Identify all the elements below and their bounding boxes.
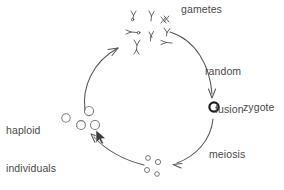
chromosome-icon xyxy=(164,28,170,36)
gametes-cluster xyxy=(126,11,172,54)
label-haploid-line1: haploid xyxy=(6,124,56,137)
chromosome-icon xyxy=(161,16,169,23)
label-gametes: gametes xyxy=(181,3,222,16)
haploid-cell-icon xyxy=(84,106,93,115)
spore-icon xyxy=(146,156,151,161)
haploid-cell-icon xyxy=(91,121,100,130)
label-random-fusion: random fusion xyxy=(205,40,244,140)
label-meiosis: meiosis xyxy=(209,148,245,161)
label-random-fusion-line1: random xyxy=(205,65,244,78)
chromosome-icon xyxy=(149,11,154,21)
meiotic-products-cluster xyxy=(145,156,161,177)
chromosome-icon xyxy=(126,30,140,34)
label-random-fusion-line2: fusion xyxy=(205,103,244,116)
label-zygote: zygote xyxy=(243,101,275,114)
arrow-haploid-individuals-to-gametes xyxy=(84,48,118,110)
mouse-cursor xyxy=(96,130,106,144)
spore-icon xyxy=(155,159,160,164)
chromosome-icon xyxy=(161,41,172,45)
haploid-cell-icon xyxy=(77,121,86,130)
spore-icon xyxy=(145,168,150,173)
haploid-life-cycle-diagram: gametes random fusion zygote meiosis hap… xyxy=(0,0,284,190)
chromosome-icon xyxy=(131,11,136,21)
haploid-cell-icon xyxy=(62,114,70,122)
label-haploid-individuals: haploid individuals xyxy=(6,99,56,190)
label-haploid-line2: individuals xyxy=(6,162,56,175)
chromosome-icon xyxy=(134,40,140,54)
chromosome-icon xyxy=(149,32,154,42)
spore-icon xyxy=(155,172,160,177)
haploid-individuals-cluster xyxy=(62,106,100,129)
